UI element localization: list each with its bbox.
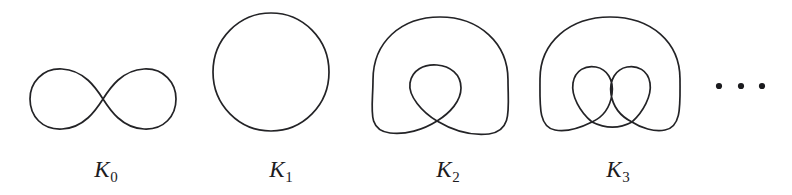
curve-k2	[372, 17, 508, 134]
ellipsis-dots	[716, 83, 765, 89]
label-k1-base: K	[269, 157, 284, 182]
ellipsis-dot-2	[738, 83, 744, 89]
label-k1-subscript: 1	[285, 169, 293, 185]
curve-k3	[540, 17, 680, 131]
loop-with-one-inner-loop-path	[372, 17, 508, 134]
figure-eight-path	[30, 69, 176, 129]
ellipsis-dot-1	[716, 83, 722, 89]
label-k2: K2	[436, 158, 459, 185]
label-k0: K0	[94, 158, 117, 185]
label-k0-base: K	[94, 157, 109, 182]
label-k0-subscript: 0	[110, 169, 118, 185]
label-k3-base: K	[606, 157, 621, 182]
ellipsis-dot-3	[759, 83, 765, 89]
label-k1: K1	[269, 158, 292, 185]
figure-container: K0 K1 K2 K3	[0, 0, 792, 195]
label-k2-base: K	[436, 157, 451, 182]
curve-diagram-canvas	[0, 0, 792, 195]
label-k3-subscript: 3	[622, 169, 630, 185]
curve-k1	[213, 13, 329, 131]
loop-with-two-inner-loops-path	[540, 17, 680, 131]
label-k2-subscript: 2	[452, 169, 460, 185]
curve-k0	[30, 69, 176, 129]
circle-path	[213, 13, 329, 131]
label-k3: K3	[606, 158, 629, 185]
